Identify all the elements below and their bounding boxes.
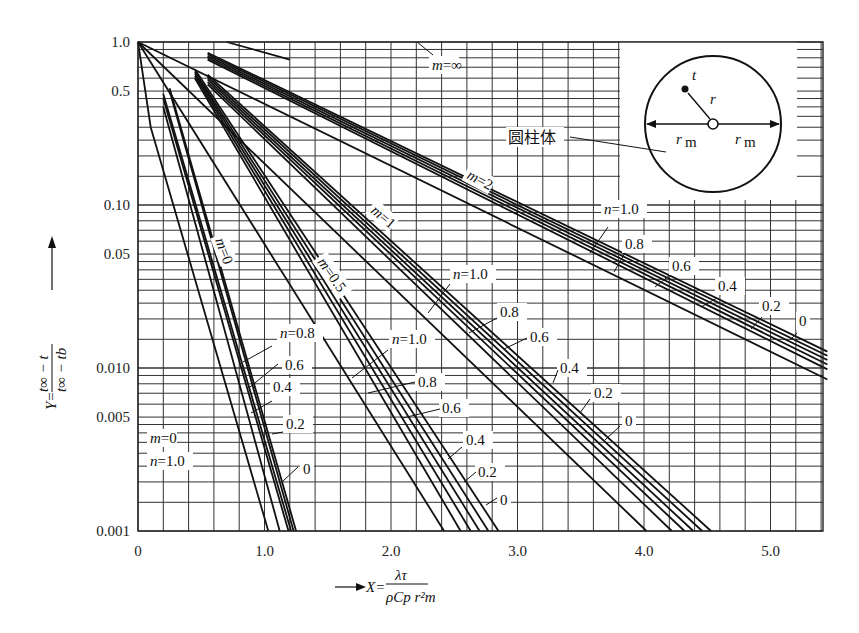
svg-text:0.2: 0.2 — [594, 385, 613, 401]
svg-text:m: m — [685, 134, 697, 150]
svg-text:n=1.0: n=1.0 — [392, 331, 427, 347]
svg-text:0.6: 0.6 — [672, 258, 691, 274]
svg-text:0.8: 0.8 — [625, 236, 644, 252]
svg-text:0.4: 0.4 — [560, 360, 579, 376]
svg-text:0.2: 0.2 — [478, 464, 497, 480]
x-tick: 5.0 — [761, 543, 780, 559]
svg-text:0.8: 0.8 — [500, 304, 519, 320]
svg-text:0.8: 0.8 — [418, 374, 437, 390]
svg-text:Y=: Y= — [43, 392, 59, 410]
curve — [195, 69, 499, 531]
svg-text:0.2: 0.2 — [762, 298, 781, 314]
x-tick: 1.0 — [255, 543, 274, 559]
svg-text:0.6: 0.6 — [285, 357, 304, 373]
svg-text:m: m — [744, 134, 756, 150]
svg-text:0.2: 0.2 — [286, 416, 305, 432]
x-tick: 3.0 — [508, 543, 527, 559]
svg-text:0.4: 0.4 — [273, 379, 292, 395]
svg-text:r: r — [676, 131, 682, 147]
x-tick: 0 — [134, 543, 142, 559]
curve — [227, 42, 290, 60]
svg-text:0.6: 0.6 — [530, 329, 549, 345]
y-tick: 0.005 — [96, 409, 130, 425]
svg-text:t∞ − t: t∞ − t — [35, 355, 51, 392]
y-tick: 0.010 — [96, 360, 130, 376]
svg-text:m=∞: m=∞ — [432, 57, 462, 73]
svg-text:0: 0 — [799, 313, 807, 329]
svg-text:X=: X= — [365, 579, 385, 595]
x-tick: 2.0 — [382, 543, 401, 559]
svg-text:n=1.0: n=1.0 — [453, 266, 488, 282]
curve — [195, 74, 480, 531]
chart: trrmrm圆柱体 m=∞m=2m=1m=0.5m=0m=0n=1.0n=0.8… — [0, 0, 859, 633]
x-tick: 4.0 — [635, 543, 654, 559]
svg-text:λτ: λτ — [394, 567, 407, 583]
svg-text:0: 0 — [625, 413, 633, 429]
svg-text:n=1.0: n=1.0 — [150, 453, 185, 469]
y-tick: 1.0 — [111, 34, 130, 50]
y-tick: 0.05 — [104, 246, 130, 262]
svg-text:0.6: 0.6 — [442, 400, 461, 416]
svg-text:n=1.0: n=1.0 — [604, 201, 639, 217]
svg-text:ρCp r²m: ρCp r²m — [385, 589, 436, 605]
svg-text:r: r — [710, 91, 716, 107]
svg-text:0.4: 0.4 — [466, 432, 485, 448]
svg-text:圆柱体: 圆柱体 — [508, 128, 556, 147]
svg-text:r: r — [735, 131, 741, 147]
svg-text:0: 0 — [500, 492, 508, 508]
svg-text:n=0.8: n=0.8 — [280, 325, 315, 341]
svg-text:0.4: 0.4 — [718, 278, 737, 294]
svg-text:m=0: m=0 — [150, 430, 177, 446]
y-tick: 0.001 — [96, 523, 130, 539]
curve — [195, 78, 461, 531]
svg-text:0: 0 — [303, 461, 311, 477]
y-tick: 0.5 — [111, 83, 130, 99]
y-tick: 0.10 — [104, 197, 130, 213]
svg-text:t∞ − tb: t∞ − tb — [53, 347, 69, 392]
